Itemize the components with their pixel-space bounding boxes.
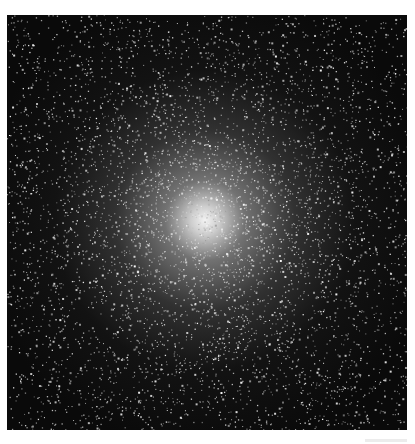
scale-bar	[365, 439, 407, 442]
star-cluster-photo	[7, 15, 407, 430]
star-field	[7, 15, 407, 430]
